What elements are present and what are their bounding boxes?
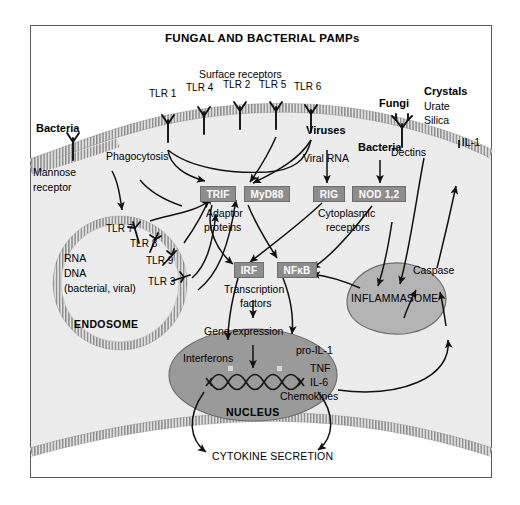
label-tlr4: TLR 4 — [186, 82, 213, 93]
label-fungi: Fungi — [379, 97, 409, 109]
label-viruses: Viruses — [306, 124, 346, 136]
protein-box-nfkb[interactable]: NFκB — [277, 262, 317, 278]
label-dectins: Dectins — [391, 146, 426, 158]
label-urate: Urate — [424, 100, 450, 112]
protein-box-nod[interactable]: NOD 1,2 — [352, 186, 406, 202]
label-tnf: TNF — [310, 362, 330, 374]
label-tlr9: TLR 9 — [146, 255, 173, 266]
protein-box-myd88[interactable]: MyD88 — [244, 186, 290, 202]
label-il1-extracellular: IL-1 — [462, 136, 480, 148]
label-endosome-origin: (bacterial, viral) — [64, 282, 136, 294]
label-interferons: Interferons — [183, 352, 233, 364]
protein-box-irf[interactable]: IRF — [234, 262, 264, 278]
label-adaptor-proteins-line1: Adaptor — [206, 207, 243, 219]
label-tlr6: TLR 6 — [294, 81, 321, 92]
label-cytoplasmic-receptors-line1: Cytoplasmic — [318, 207, 375, 219]
label-chemokines: Chemokines — [280, 390, 338, 402]
label-tlr7: TLR 7 — [106, 223, 133, 234]
label-nucleus: NUCLEUS — [226, 406, 280, 418]
label-gene-expression: Gene expression — [204, 325, 283, 337]
label-tlr5: TLR 5 — [259, 79, 286, 90]
label-tlr8: TLR 8 — [130, 238, 157, 249]
label-crystals: Crystals — [424, 85, 467, 97]
label-bacteria-extracellular: Bacteria — [36, 122, 79, 134]
label-transcription-factors-line2: factors — [240, 297, 272, 309]
label-tlr1: TLR 1 — [149, 88, 176, 99]
label-adaptor-proteins-line2: proteins — [204, 221, 241, 233]
label-transcription-factors-line1: Transcription — [224, 283, 284, 295]
label-tlr3: TLR 3 — [148, 276, 175, 287]
label-viral-rna: Viral RNA — [303, 152, 349, 164]
label-pro-il1: pro-IL-1 — [296, 344, 333, 356]
label-il6: IL-6 — [310, 376, 328, 388]
label-cytoplasmic-receptors-line2: receptors — [326, 221, 370, 233]
label-caspase: Caspase — [413, 264, 454, 276]
protein-box-trif[interactable]: TRIF — [200, 186, 236, 202]
label-mannose-receptor-line1: Mannose — [33, 166, 76, 178]
label-endosome-dna: DNA — [64, 267, 86, 279]
diagram-canvas: FUNGAL AND BACTERIAL PAMPs Surface recep… — [0, 0, 520, 505]
protein-box-rig[interactable]: RIG — [313, 186, 345, 202]
label-tlr2: TLR 2 — [223, 79, 250, 90]
figure-title: FUNGAL AND BACTERIAL PAMPs — [165, 32, 360, 44]
label-mannose-receptor-line2: receptor — [33, 181, 72, 193]
label-phagocytosis: Phagocytosis — [106, 150, 168, 162]
label-inflammasome: INFLAMMASOME — [351, 292, 439, 304]
label-endosome: ENDOSOME — [74, 318, 138, 330]
label-cytokine-secretion: CYTOKINE SECRETION — [212, 450, 333, 462]
label-endosome-rna: RNA — [64, 252, 86, 264]
label-silica: Silica — [424, 114, 449, 126]
